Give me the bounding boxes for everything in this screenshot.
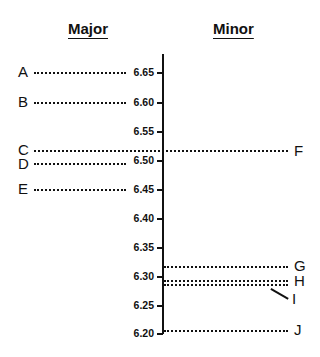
tick-label: 6.40 xyxy=(114,212,154,224)
level-label-e: E xyxy=(18,180,28,197)
level-line-c-f xyxy=(34,150,288,152)
tick-label: 6.35 xyxy=(114,241,154,253)
level-label-i: I xyxy=(292,290,296,307)
level-label-d: D xyxy=(18,155,29,172)
tick-mark xyxy=(157,247,163,249)
level-line-a xyxy=(34,72,126,74)
level-diagram: Major Minor 6.65 6.60 6.55 6.50 6.45 6.4… xyxy=(0,0,320,357)
level-line-i xyxy=(164,284,288,286)
level-line-g xyxy=(164,266,288,268)
tick-mark xyxy=(157,72,163,74)
tick-mark xyxy=(157,131,163,133)
tick-mark xyxy=(157,333,163,335)
tick-mark xyxy=(157,218,163,220)
major-header: Major xyxy=(68,20,108,37)
tick-label: 6.30 xyxy=(114,270,154,282)
level-label-b: B xyxy=(18,93,28,110)
tick-label: 6.55 xyxy=(114,125,154,137)
tick-label: 6.25 xyxy=(114,299,154,311)
tick-mark xyxy=(157,305,163,307)
vertical-axis xyxy=(162,54,164,334)
tick-mark xyxy=(157,189,163,191)
level-line-h xyxy=(164,280,288,282)
tick-mark xyxy=(157,102,163,104)
level-line-d xyxy=(34,163,126,165)
level-line-j xyxy=(164,330,288,332)
level-label-f: F xyxy=(294,142,303,159)
level-line-b xyxy=(34,102,126,104)
tick-mark xyxy=(157,276,163,278)
minor-header: Minor xyxy=(213,20,254,37)
tick-label: 6.20 xyxy=(114,327,154,339)
tick-mark xyxy=(157,160,163,162)
level-line-e xyxy=(34,189,126,191)
pointer-line-i xyxy=(271,288,289,299)
level-label-h: H xyxy=(294,272,305,289)
level-label-j: J xyxy=(294,321,302,338)
level-label-a: A xyxy=(18,63,28,80)
